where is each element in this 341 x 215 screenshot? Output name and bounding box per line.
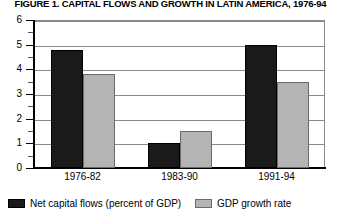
figure-container: FIGURE 1. CAPITAL FLOWS AND GROWTH IN LA… xyxy=(0,0,341,215)
chart-legend: Net capital flows (percent of GDP)GDP gr… xyxy=(0,196,341,210)
bar-1983-90-gdp-growth-rate xyxy=(180,131,212,168)
y-tick-label-5: 5 xyxy=(0,40,22,50)
bar-1991-94-gdp-growth-rate xyxy=(277,82,309,168)
y-tick-4 xyxy=(26,69,33,70)
y-tick-label-1: 1 xyxy=(0,138,22,148)
y-minor-tick-2.5 xyxy=(28,106,33,107)
y-minor-tick-1.5 xyxy=(28,131,33,132)
bar-1976-82-gdp-growth-rate xyxy=(83,74,115,168)
chart-title: FIGURE 1. CAPITAL FLOWS AND GROWTH IN LA… xyxy=(0,0,341,10)
y-tick-1 xyxy=(26,143,33,144)
legend-item-gdp-growth-rate[interactable]: GDP growth rate xyxy=(195,196,291,210)
y-tick-0 xyxy=(26,168,33,169)
y-tick-6 xyxy=(26,20,33,21)
x-tick-label-1976-82: 1976-82 xyxy=(34,171,131,182)
bar-1991-94-net-capital-flows xyxy=(245,45,277,168)
legend-label: GDP growth rate xyxy=(217,198,291,209)
y-tick-5 xyxy=(26,45,33,46)
y-minor-tick-3.5 xyxy=(28,82,33,83)
y-tick-3 xyxy=(26,94,33,95)
bar-1976-82-net-capital-flows xyxy=(51,50,83,168)
x-tick-label-1983-90: 1983-90 xyxy=(131,171,228,182)
y-tick-label-3: 3 xyxy=(0,89,22,99)
legend-swatch-icon-dark xyxy=(8,199,25,208)
y-tick-label-4: 4 xyxy=(0,64,22,74)
y-minor-tick-4.5 xyxy=(28,57,33,58)
x-tick-label-1991-94: 1991-94 xyxy=(228,171,325,182)
y-tick-label-6: 6 xyxy=(0,15,22,25)
y-minor-tick-0.5 xyxy=(28,156,33,157)
bar-group-1976-82 xyxy=(51,20,115,168)
bar-series-group xyxy=(34,20,325,168)
legend-item-net-capital-flows[interactable]: Net capital flows (percent of GDP) xyxy=(8,196,181,210)
bar-1983-90-net-capital-flows xyxy=(148,143,180,168)
y-tick-label-0: 0 xyxy=(0,163,22,173)
bar-group-1983-90 xyxy=(148,20,212,168)
legend-label: Net capital flows (percent of GDP) xyxy=(30,198,181,209)
bar-group-1991-94 xyxy=(245,20,309,168)
y-minor-tick-5.5 xyxy=(28,32,33,33)
y-tick-2 xyxy=(26,119,33,120)
y-tick-label-2: 2 xyxy=(0,114,22,124)
legend-swatch-icon-gray xyxy=(195,199,212,208)
